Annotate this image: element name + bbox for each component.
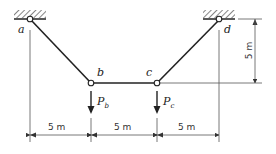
dimension-ab: 5 m xyxy=(48,123,65,132)
cable-diagram: a b c d Pb Pc 5 m 5 m 5 m 5 m xyxy=(0,0,276,154)
diagram-canvas xyxy=(0,0,276,154)
dimension-cd: 5 m xyxy=(178,123,195,132)
pin-joints xyxy=(27,16,222,86)
node-label-d: d xyxy=(224,24,231,35)
load-label-pb: Pb xyxy=(97,96,109,110)
node-label-a: a xyxy=(18,24,25,35)
pin-d-icon xyxy=(216,16,222,22)
dimension-bc: 5 m xyxy=(114,123,131,132)
dimension-arrowheads xyxy=(30,19,258,138)
cable-members xyxy=(31,20,219,83)
load-label-pc: Pc xyxy=(163,96,174,110)
node-label-c: c xyxy=(146,67,152,78)
load-arrow-pc-icon xyxy=(154,91,161,114)
load-arrow-pb-icon xyxy=(88,91,95,114)
dimension-sag: 5 m xyxy=(245,42,254,59)
pin-a-icon xyxy=(27,16,33,22)
node-label-b: b xyxy=(97,67,104,78)
pin-c-icon xyxy=(154,80,160,86)
pin-b-icon xyxy=(88,80,94,86)
